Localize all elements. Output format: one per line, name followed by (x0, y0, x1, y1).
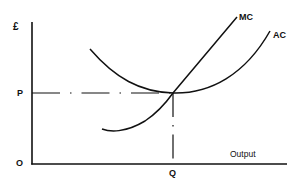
x-axis-label: Output (230, 150, 256, 159)
mc-label: MC (239, 13, 253, 22)
mc-curve (102, 17, 237, 131)
origin-label: O (16, 159, 23, 168)
ac-label: AC (273, 31, 286, 40)
y-axis-label: £ (13, 22, 19, 32)
price-label: P (17, 89, 23, 98)
quantity-label: Q (169, 169, 176, 178)
